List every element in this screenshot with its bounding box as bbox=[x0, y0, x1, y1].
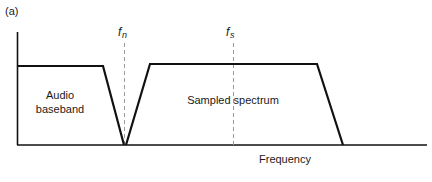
fs-label: f s bbox=[226, 25, 235, 40]
fn-label: f n bbox=[118, 25, 127, 40]
sampled-spectrum-label: Sampled spectrum bbox=[187, 94, 279, 106]
audio-baseband-label-line2: baseband bbox=[36, 103, 84, 115]
spectrum-diagram: (a) f n f s Audio baseband Sampled spect… bbox=[0, 0, 432, 182]
fn-subscript: n bbox=[122, 30, 127, 40]
audio-baseband-label-line1: Audio bbox=[46, 89, 74, 101]
fs-subscript: s bbox=[230, 30, 235, 40]
panel-label: (a) bbox=[5, 5, 18, 17]
x-axis-title: Frequency bbox=[259, 153, 311, 165]
